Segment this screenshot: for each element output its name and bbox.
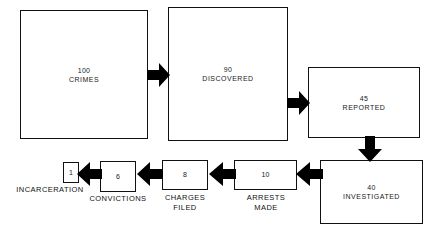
arrow-right-icon-crimes-to-discovered: [147, 62, 170, 88]
stage-box-convictions[interactable]: 6: [100, 161, 136, 192]
stage-box-charges[interactable]: 8: [162, 160, 208, 190]
stage-label-discovered: DISCOVERED: [202, 74, 253, 83]
arrow-left-icon-investigated-to-arrests: [295, 161, 323, 187]
stage-number-charges: 8: [183, 171, 187, 179]
stage-number-investigated: 40: [367, 183, 375, 192]
arrow-right-icon-discovered-to-reported: [287, 90, 310, 116]
stage-number-reported: 45: [360, 94, 368, 103]
stage-caption-convictions: CONVICTIONS: [76, 194, 160, 204]
stage-number-crimes: 100: [78, 66, 91, 75]
arrow-down-icon-reported-to-investigated: [357, 136, 383, 162]
stage-label-investigated: INVESTIGATED: [343, 192, 400, 201]
stage-box-arrests[interactable]: 10: [234, 160, 297, 190]
stage-box-investigated[interactable]: 40 INVESTIGATED: [320, 160, 423, 224]
stage-label-reported: REPORTED: [343, 103, 386, 112]
stage-number-discovered: 90: [224, 65, 232, 74]
arrow-left-icon-charges-to-convictions: [136, 161, 163, 187]
flowchart-canvas: 100 CRIMES 90 DISCOVERED 45 REPORTED 40 …: [0, 0, 431, 234]
stage-number-arrests: 10: [262, 171, 270, 179]
stage-number-incarceration: 1: [69, 169, 73, 177]
stage-number-convictions: 6: [116, 173, 120, 181]
stage-caption-charges: CHARGES FILED: [152, 193, 218, 212]
stage-box-reported[interactable]: 45 REPORTED: [308, 67, 420, 138]
stage-label-crimes: CRIMES: [69, 75, 99, 84]
arrow-left-icon-arrests-to-charges: [208, 161, 236, 187]
stage-box-crimes[interactable]: 100 CRIMES: [20, 10, 148, 139]
arrow-left-icon-convictions-to-incarceration: [76, 161, 102, 187]
stage-box-discovered[interactable]: 90 DISCOVERED: [168, 7, 288, 141]
stage-caption-arrests: ARRESTS MADE: [228, 193, 304, 212]
